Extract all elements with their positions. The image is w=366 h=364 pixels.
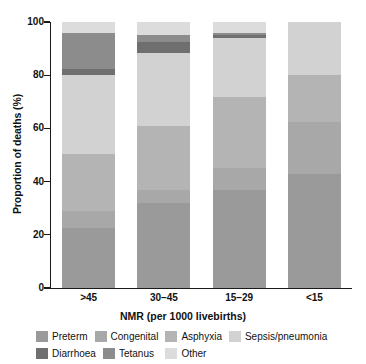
bar-segment-asphyxia	[137, 126, 190, 190]
legend-item-label: Asphyxia	[181, 331, 222, 342]
bar-1529	[213, 22, 266, 288]
bar-segment-diarrhoea	[137, 42, 190, 53]
y-axis-tick-label-text: 40	[18, 176, 44, 187]
y-axis-tick-label: 20	[10, 229, 44, 241]
bar-segment-sepsis-pneumonia	[62, 75, 115, 153]
bar-segment-sepsis-pneumonia	[137, 53, 190, 126]
legend-swatch-icon	[36, 331, 48, 342]
bar-segment-other	[62, 22, 115, 33]
legend-swatch-icon	[229, 331, 241, 342]
legend-item-label: Tetanus	[119, 348, 154, 359]
bar-45	[62, 22, 115, 288]
legend-swatch-icon	[36, 348, 48, 359]
legend-row-primary: PretermCongenitalAsphyxiaSepsis/pneumoni…	[0, 328, 366, 345]
y-axis-tick-label: 100	[10, 16, 44, 28]
chart-legend: PretermCongenitalAsphyxiaSepsis/pneumoni…	[0, 328, 366, 362]
plot-area	[51, 22, 352, 288]
legend-swatch-icon	[165, 348, 177, 359]
legend-item-preterm[interactable]: Preterm	[36, 331, 88, 342]
legend-item-diarrhoea[interactable]: Diarrhoea	[36, 348, 96, 359]
bar-segment-congenital	[137, 190, 190, 203]
bar-segment-preterm	[288, 174, 341, 288]
legend-item-tetanus[interactable]: Tetanus	[103, 348, 154, 359]
legend-swatch-icon	[95, 331, 107, 342]
x-axis-tick-label: >45	[54, 292, 124, 303]
bar-segment-congenital	[62, 211, 115, 228]
y-axis-tick	[44, 181, 50, 182]
legend-item-label: Preterm	[52, 331, 88, 342]
bar-3045	[137, 22, 190, 288]
y-axis-tick	[44, 234, 50, 235]
legend-item-other[interactable]: Other	[165, 348, 206, 359]
bar-segment-tetanus	[137, 35, 190, 42]
y-axis-tick-label-text: 0	[18, 282, 44, 293]
bar-segment-other	[137, 22, 190, 35]
legend-row-secondary: DiarrhoeaTetanusOther	[0, 345, 366, 362]
y-axis-tick-label-text: 60	[18, 122, 44, 133]
bar-15	[288, 22, 341, 288]
bar-segment-preterm	[213, 190, 266, 288]
y-axis-tick-label-text: 20	[18, 229, 44, 240]
y-axis-tick-label-text: 80	[18, 69, 44, 80]
legend-swatch-icon	[103, 348, 115, 359]
stacked-bar-chart: Proportion of deaths (%) 020406080100 >4…	[0, 0, 366, 364]
bar-segment-congenital	[288, 122, 341, 174]
legend-item-label: Congenital	[111, 331, 159, 342]
bar-segment-preterm	[62, 228, 115, 288]
x-axis-tick-label: <15	[279, 292, 349, 303]
y-axis-tick-label: 80	[10, 69, 44, 81]
y-axis-tick-label: 60	[10, 122, 44, 134]
legend-item-congenital[interactable]: Congenital	[95, 331, 159, 342]
legend-swatch-icon	[165, 331, 177, 342]
y-axis-tick	[44, 128, 50, 129]
bar-segment-asphyxia	[213, 97, 266, 169]
bar-segment-other	[213, 22, 266, 33]
legend-item-label: Sepsis/pneumonia	[245, 331, 327, 342]
legend-item-label: Other	[181, 348, 206, 359]
legend-item-asphyxia[interactable]: Asphyxia	[165, 331, 222, 342]
y-axis-tick-label-text: 100	[18, 16, 44, 27]
bar-segment-sepsis-pneumonia	[288, 22, 341, 75]
y-axis-tick-label: 40	[10, 176, 44, 188]
x-axis-line	[50, 288, 352, 289]
bar-segment-sepsis-pneumonia	[213, 38, 266, 97]
bar-segment-congenital	[213, 168, 266, 189]
y-axis-tick-label: 0	[10, 282, 44, 294]
legend-item-sepsis-pneumonia[interactable]: Sepsis/pneumonia	[229, 331, 327, 342]
y-axis-tick	[44, 21, 50, 22]
bar-segment-diarrhoea	[62, 69, 115, 76]
x-axis-tick-label: 30–45	[129, 292, 199, 303]
y-axis-tick	[44, 287, 50, 288]
bar-segment-asphyxia	[62, 154, 115, 211]
x-axis-title: NMR (per 1000 livebirths)	[0, 310, 366, 322]
y-axis-tick	[44, 75, 50, 76]
bar-segment-tetanus	[62, 33, 115, 69]
x-axis-tick-label: 15–29	[204, 292, 274, 303]
legend-item-label: Diarrhoea	[52, 348, 96, 359]
bar-segment-asphyxia	[288, 75, 341, 122]
bar-segment-preterm	[137, 203, 190, 288]
